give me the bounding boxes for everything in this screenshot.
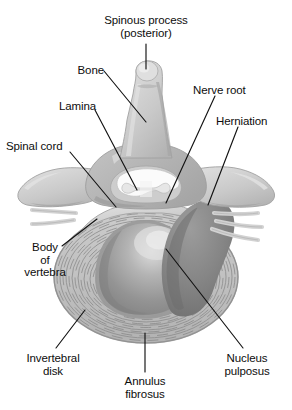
label-invertebral-disk-line1: Invertebral xyxy=(26,352,79,364)
label-spinous-process-line2: (posterior) xyxy=(88,27,204,40)
label-body-of-vertebra-line3: vertebra xyxy=(8,266,82,279)
anatomy-illustration xyxy=(0,0,292,410)
label-annulus-fibrosus-line1: Annulus xyxy=(125,375,166,387)
label-body-of-vertebra-line2: of xyxy=(8,254,82,267)
label-lamina-line1: Lamina xyxy=(59,100,96,112)
label-body-of-vertebra-line1: Body xyxy=(32,241,58,253)
label-nerve-root: Nerve root xyxy=(193,84,279,97)
label-spinous-process: Spinous process (posterior) xyxy=(88,14,204,39)
label-spinal-cord-line1: Spinal cord xyxy=(6,140,62,152)
label-invertebral-disk-line2: disk xyxy=(16,365,90,378)
label-herniation: Herniation xyxy=(216,115,292,128)
spinous-process-shape xyxy=(120,61,172,158)
label-nucleus-pulposus: Nucleus pulposus xyxy=(209,352,285,377)
label-nucleus-pulposus-line1: Nucleus xyxy=(227,352,268,364)
label-lamina: Lamina xyxy=(20,100,96,113)
label-spinal-cord: Spinal cord xyxy=(6,140,92,153)
label-herniation-line1: Herniation xyxy=(216,115,267,127)
label-spinous-process-line1: Spinous process xyxy=(104,14,188,26)
label-bone-line1: Bone xyxy=(78,64,104,76)
label-body-of-vertebra: Body of vertebra xyxy=(8,241,82,279)
label-invertebral-disk: Invertebral disk xyxy=(16,352,90,377)
label-nerve-root-line1: Nerve root xyxy=(193,84,246,96)
label-annulus-fibrosus: Annulus fibrosus xyxy=(109,375,181,400)
herniated-disk-figure: Spinous process (posterior) Bone Lamina … xyxy=(0,0,292,410)
label-annulus-fibrosus-line2: fibrosus xyxy=(109,388,181,401)
label-nucleus-pulposus-line2: pulposus xyxy=(209,365,285,378)
label-bone: Bone xyxy=(40,64,104,77)
